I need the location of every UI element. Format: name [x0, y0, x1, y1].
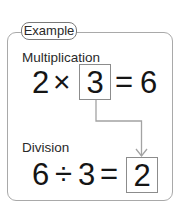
div-equals-sign: =: [100, 158, 118, 189]
div-left-operand: 6: [32, 159, 49, 190]
div-boxed-answer: 2: [126, 157, 158, 193]
division-title: Division: [22, 140, 69, 155]
div-boxed-value: 2: [133, 160, 150, 191]
div-right-operand: 3: [78, 159, 95, 190]
divide-sign: ÷: [55, 158, 72, 189]
